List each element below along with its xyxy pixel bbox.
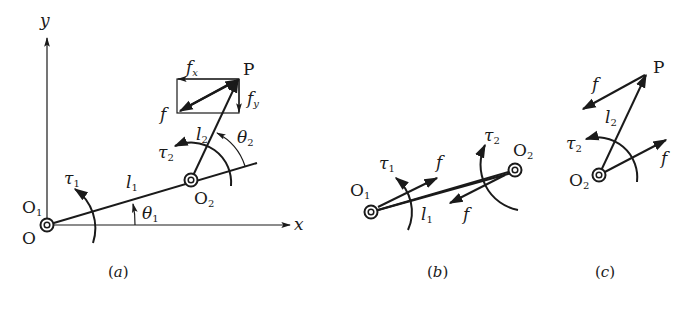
y-axis-label: y	[39, 10, 50, 30]
panel-b: O1 O2 τ1 τ2 f f l1 (b)	[350, 125, 533, 281]
joint-o2-b	[509, 164, 522, 177]
two-link-manipulator-figure: y x θ1 θ2 τ1 τ2	[0, 0, 688, 309]
joint-o2-c	[593, 169, 606, 182]
joint1-label-b: O1	[350, 180, 370, 201]
force-f-out-label-b: f	[434, 152, 445, 172]
link1-label: l1	[126, 172, 138, 193]
caption-a: (a)	[108, 263, 129, 281]
fy-label: fy	[245, 88, 259, 109]
joint1-label: O1	[22, 197, 42, 218]
force-f-base-arrow	[601, 140, 666, 174]
link-1-lower	[371, 172, 515, 212]
theta2-label: θ2	[237, 127, 254, 148]
origin-label: O	[22, 228, 36, 248]
theta1-arc	[133, 204, 135, 225]
tau2-label-b: τ2	[484, 125, 500, 146]
joint2-label-c: O2	[569, 170, 589, 191]
force-f-arrow-back	[185, 80, 238, 108]
force-f-label: f	[158, 104, 169, 124]
joint-o1-b	[365, 206, 378, 219]
panel-a: y x θ1 θ2 τ1 τ2	[22, 10, 304, 281]
caption-c: (c)	[595, 263, 615, 281]
link2-label: l2	[196, 124, 208, 145]
force-f-in-label-b: f	[461, 204, 472, 224]
tau1-label-b: τ1	[379, 153, 395, 174]
caption-b: (b)	[427, 263, 448, 281]
force-f-end-label-c: f	[590, 74, 601, 94]
force-f-base-label-c: f	[659, 148, 670, 168]
fx-label: fx	[184, 57, 198, 78]
end-effector-label: P	[243, 59, 254, 79]
tau1-label: τ1	[64, 168, 80, 189]
end-effector-label-c: P	[653, 57, 664, 77]
x-axis-label: x	[294, 214, 304, 234]
link1-label-b: l1	[421, 204, 433, 225]
theta1-label: θ1	[142, 203, 159, 224]
tau2-label: τ2	[158, 142, 174, 163]
panel-c: P f f l2 τ2 O2 (c)	[566, 57, 670, 281]
tau2-label-c: τ2	[566, 133, 582, 154]
joint-o1	[41, 219, 54, 232]
joint-o2	[185, 174, 198, 187]
link2-label-c: l2	[605, 107, 617, 128]
joint2-label: O2	[194, 188, 214, 209]
joint2-label-b: O2	[513, 140, 533, 161]
